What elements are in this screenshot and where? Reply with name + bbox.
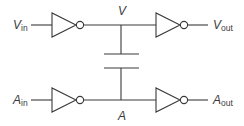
node-a-label: A	[117, 109, 126, 123]
inverter-triangle-icon	[156, 88, 180, 112]
a-out-label: Aout	[212, 93, 233, 108]
inverter-a-out	[156, 88, 188, 112]
inverter-v-out	[156, 13, 188, 37]
v-out-label: Vout	[213, 18, 233, 33]
inverter-bubble-icon	[180, 21, 187, 28]
inverter-a-in	[52, 88, 84, 112]
inverter-v-in	[52, 13, 84, 37]
node-v-label: V	[118, 4, 127, 18]
inverter-triangle-icon	[52, 88, 76, 112]
coupling-capacitor	[104, 25, 139, 100]
inverter-triangle-icon	[156, 13, 180, 37]
circuit-diagram: Vin V Vout Ain A	[0, 0, 244, 126]
inverter-triangle-icon	[52, 13, 76, 37]
inverter-bubble-icon	[180, 96, 187, 103]
v-in-label: Vin	[13, 18, 28, 33]
circuit-svg: Vin V Vout Ain A	[0, 0, 244, 126]
inverter-bubble-icon	[76, 21, 83, 28]
a-in-label: Ain	[12, 93, 28, 108]
inverter-bubble-icon	[76, 96, 83, 103]
